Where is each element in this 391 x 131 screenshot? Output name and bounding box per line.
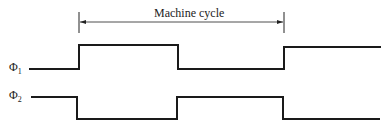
phi1-label: Φ1 bbox=[9, 60, 22, 76]
phi1-subscript: 1 bbox=[18, 67, 22, 76]
phi2-label: Φ2 bbox=[9, 88, 22, 104]
timing-diagram: Machine cycle Φ1 Φ2 bbox=[0, 0, 391, 131]
phi2-subscript: 2 bbox=[18, 95, 22, 104]
phi2-symbol: Φ bbox=[9, 88, 18, 102]
phi1-waveform bbox=[29, 45, 381, 69]
machine-cycle-label: Machine cycle bbox=[154, 6, 224, 21]
phi2-waveform bbox=[31, 97, 380, 119]
phi1-symbol: Φ bbox=[9, 60, 18, 74]
